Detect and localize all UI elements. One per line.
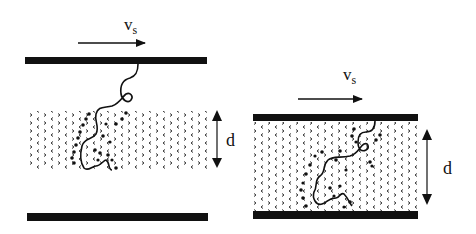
top-wall [25,57,207,64]
left-panel: vs d [25,15,235,221]
velocity-label: vs [124,15,138,37]
velocity-indicator: vs [78,15,145,43]
thickness-indicator: d [212,110,235,168]
thickness-label: d [226,130,235,150]
velocity-indicator: vs [298,65,362,99]
thickness-indicator: d [422,129,452,205]
diagram-canvas: vs d [0,0,476,234]
bottom-wall [27,213,208,221]
right-panel: vs [253,65,452,219]
bottom-wall [253,211,418,219]
thickness-label: d [443,158,452,178]
fluid-layer [25,111,207,169]
top-wall [253,114,418,121]
velocity-label: vs [343,65,357,87]
